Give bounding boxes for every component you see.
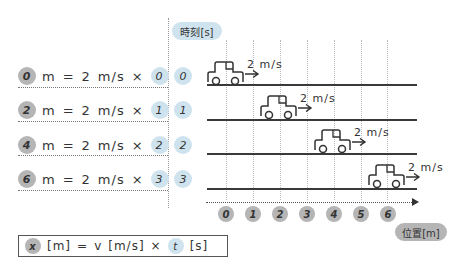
unit-m: m [42,138,56,153]
row-divider-0 [18,87,168,88]
formula-v-unit: [m/s] [108,239,144,253]
speed-unit: m/s [98,172,125,187]
arrow-icon-3 [406,173,422,181]
car-icon-2 [312,128,354,154]
arrow-icon-0 [245,70,261,78]
position-tick-3: 3 [299,206,315,222]
equation-row-3: 6 m = 2 m/s × 3 s [18,167,190,191]
equation-row-1: 2 m = 2 m/s × 1 s [18,98,190,122]
position-axis-arrowhead-icon [412,198,420,206]
formula-times: × [151,239,162,253]
row-divider-2 [18,155,168,156]
unit-m: m [42,69,56,84]
time-badge: 0 [151,67,169,85]
equals: = [63,172,75,187]
equation-row-2: 4 m = 2 m/s × 2 s [18,133,190,157]
formula-t-badge: t [168,238,184,254]
time-label-0: 0 [174,67,192,85]
road-1 [207,119,417,121]
time-badge: 3 [151,170,169,188]
car-speed-label-2: 2 m/s [354,126,390,139]
car-speed-label-3: 2 m/s [408,161,444,174]
times-sign: × [132,103,144,118]
equals: = [63,138,75,153]
formula-x-badge: x [25,238,41,254]
distance-badge: 2 [18,101,36,119]
position-tick-4: 4 [326,206,342,222]
row-divider-3 [18,190,168,191]
car-icon-3 [366,163,408,189]
speed-value: 2 [82,69,91,84]
equals: = [63,69,75,84]
car-speed-label-1: 2 m/s [300,92,336,105]
position-tick-6: 6 [380,206,396,222]
time-axis-label: 時刻[s] [172,22,222,40]
times-sign: × [132,138,144,153]
speed-value: 2 [82,172,91,187]
times-sign: × [132,69,144,84]
equation-row-0: 0 m = 2 m/s × 0 s [18,64,190,88]
position-tick-1: 1 [245,206,261,222]
formula-box: x [m] = v [m/s] × t [s] [18,235,228,257]
arrow-icon-2 [352,138,368,146]
time-label-1: 1 [174,101,192,119]
car-speed-label-0: 2 m/s [247,58,283,71]
position-axis-line [206,202,414,203]
times-sign: × [132,172,144,187]
car-icon-0 [205,60,247,86]
distance-badge: 0 [18,67,36,85]
distance-badge: 4 [18,136,36,154]
speed-unit: m/s [98,103,125,118]
position-axis-label: 位置[m] [395,223,447,241]
position-tick-0: 0 [218,206,234,222]
arrow-icon-1 [298,104,314,112]
speed-value: 2 [82,103,91,118]
time-label-3: 3 [174,170,192,188]
row-divider-1 [18,121,168,122]
formula-t-unit: [s] [190,239,209,253]
position-tick-2: 2 [272,206,288,222]
formula-x-unit: [m] [47,239,71,253]
unit-m: m [42,103,56,118]
unit-m: m [42,172,56,187]
speed-value: 2 [82,138,91,153]
time-label-2: 2 [174,136,192,154]
time-badge: 1 [151,101,169,119]
time-badge: 2 [151,136,169,154]
distance-badge: 6 [18,170,36,188]
car-icon-1 [258,94,300,120]
position-tick-5: 5 [353,206,369,222]
speed-unit: m/s [98,69,125,84]
formula-equals: = [77,239,88,253]
formula-v: v [94,239,102,253]
speed-unit: m/s [98,138,125,153]
equals: = [63,103,75,118]
